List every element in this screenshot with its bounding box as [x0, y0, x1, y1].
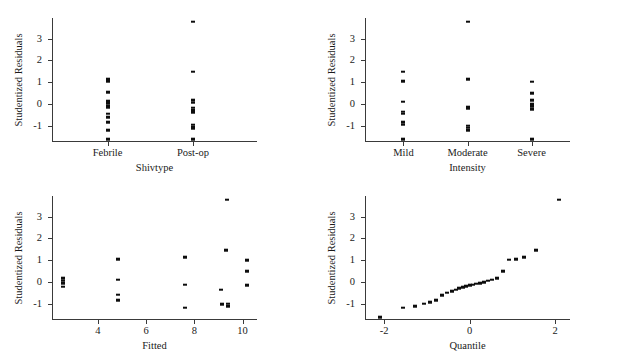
y-tick: [48, 39, 52, 40]
data-point: [507, 258, 511, 261]
plot-area: -10123MildModerateSevere: [365, 18, 570, 142]
data-point: [116, 278, 120, 281]
y-axis-label: Studentized Residuals: [14, 211, 25, 304]
y-tick: [48, 238, 52, 239]
data-point: [557, 198, 561, 201]
y-tick-label: 0: [37, 99, 48, 110]
data-point: [183, 306, 187, 309]
data-point-mild: [401, 138, 405, 141]
y-tick-label: 0: [37, 277, 48, 288]
y-tick: [361, 104, 365, 105]
data-point: [226, 305, 230, 308]
x-tick-label: Moderate: [447, 148, 487, 159]
x-axis-line: [365, 319, 570, 320]
y-tick-label: 1: [350, 77, 361, 88]
data-point-post-op: [191, 70, 195, 73]
y-tick-label: -1: [33, 298, 48, 309]
y-axis-line: [365, 18, 366, 142]
x-axis-line: [52, 141, 257, 142]
y-tick: [361, 126, 365, 127]
x-tick-label: 2: [552, 326, 557, 337]
y-tick: [48, 126, 52, 127]
plot-area: -1012346810: [52, 196, 257, 320]
data-point: [434, 299, 438, 302]
data-point: [378, 316, 382, 319]
y-tick: [361, 39, 365, 40]
panel-residuals-vs-fitted: -1012346810FittedStudentized Residuals: [52, 196, 257, 320]
data-point: [413, 305, 417, 308]
y-axis-label: Studentized Residuals: [14, 33, 25, 126]
data-point: [116, 299, 120, 302]
data-point-febrile: [106, 112, 110, 115]
x-tick-label: 10: [237, 326, 248, 337]
y-axis-line: [52, 196, 53, 320]
x-tick: [243, 320, 244, 324]
data-point: [245, 284, 249, 287]
x-tick: [470, 320, 471, 324]
x-tick-label: -2: [380, 326, 389, 337]
y-axis-label: Studentized Residuals: [327, 33, 338, 126]
data-point: [61, 282, 65, 285]
x-tick: [146, 320, 147, 324]
data-point: [501, 270, 505, 273]
y-tick: [48, 282, 52, 283]
data-point-febrile: [106, 91, 110, 94]
x-axis-label: Quantile: [449, 341, 485, 352]
data-point-moderate: [466, 78, 470, 81]
x-tick-label: Febrile: [93, 148, 123, 159]
x-tick: [194, 320, 195, 324]
y-tick-label: 2: [350, 233, 361, 244]
y-tick: [48, 60, 52, 61]
data-point: [514, 258, 518, 261]
data-point-post-op: [191, 138, 195, 141]
data-point-mild: [401, 123, 405, 126]
data-point-febrile: [106, 138, 110, 141]
panel-normal-qq-plot: -10123-202QuantileStudentized Residuals: [365, 196, 570, 320]
data-point: [534, 249, 538, 252]
x-tick: [108, 142, 109, 146]
plot-area: -10123FebrilePost-op: [52, 18, 257, 142]
y-tick-label: 0: [350, 277, 361, 288]
data-point-moderate: [466, 20, 470, 23]
data-point-febrile: [106, 107, 110, 110]
data-point-post-op: [191, 127, 195, 130]
x-tick-label: 6: [143, 326, 148, 337]
y-tick: [361, 60, 365, 61]
x-axis-label: Intensity: [449, 163, 486, 174]
y-axis-line: [365, 196, 366, 320]
y-tick-label: -1: [346, 120, 361, 131]
data-point: [245, 270, 249, 273]
data-point-moderate: [466, 107, 470, 110]
y-tick: [48, 260, 52, 261]
x-tick: [403, 142, 404, 146]
data-point: [116, 258, 120, 261]
y-tick-label: 3: [37, 211, 48, 222]
data-point-post-op: [191, 102, 195, 105]
x-axis-line: [52, 319, 257, 320]
data-point: [422, 302, 426, 305]
x-axis-label: Fitted: [142, 341, 167, 352]
data-point-post-op: [191, 111, 195, 114]
data-point: [224, 249, 228, 252]
data-point-mild: [401, 70, 405, 73]
data-point-severe: [530, 105, 534, 108]
y-axis-label: Studentized Residuals: [327, 211, 338, 304]
y-tick: [361, 238, 365, 239]
y-tick-label: 3: [350, 33, 361, 44]
data-point: [219, 288, 223, 291]
y-tick-label: 1: [37, 77, 48, 88]
data-point: [440, 294, 444, 297]
y-axis-line: [52, 18, 53, 142]
data-point: [495, 277, 499, 280]
plot-area: -10123-202: [365, 196, 570, 320]
x-tick-label: 4: [95, 326, 100, 337]
y-tick-label: 2: [350, 55, 361, 66]
y-tick: [48, 82, 52, 83]
data-point-febrile: [106, 121, 110, 124]
data-point-severe: [530, 138, 534, 141]
x-tick-label: 8: [192, 326, 197, 337]
x-tick: [193, 142, 194, 146]
x-tick-label: Mild: [393, 148, 413, 159]
data-point-febrile: [106, 129, 110, 132]
y-tick-label: 2: [37, 233, 48, 244]
